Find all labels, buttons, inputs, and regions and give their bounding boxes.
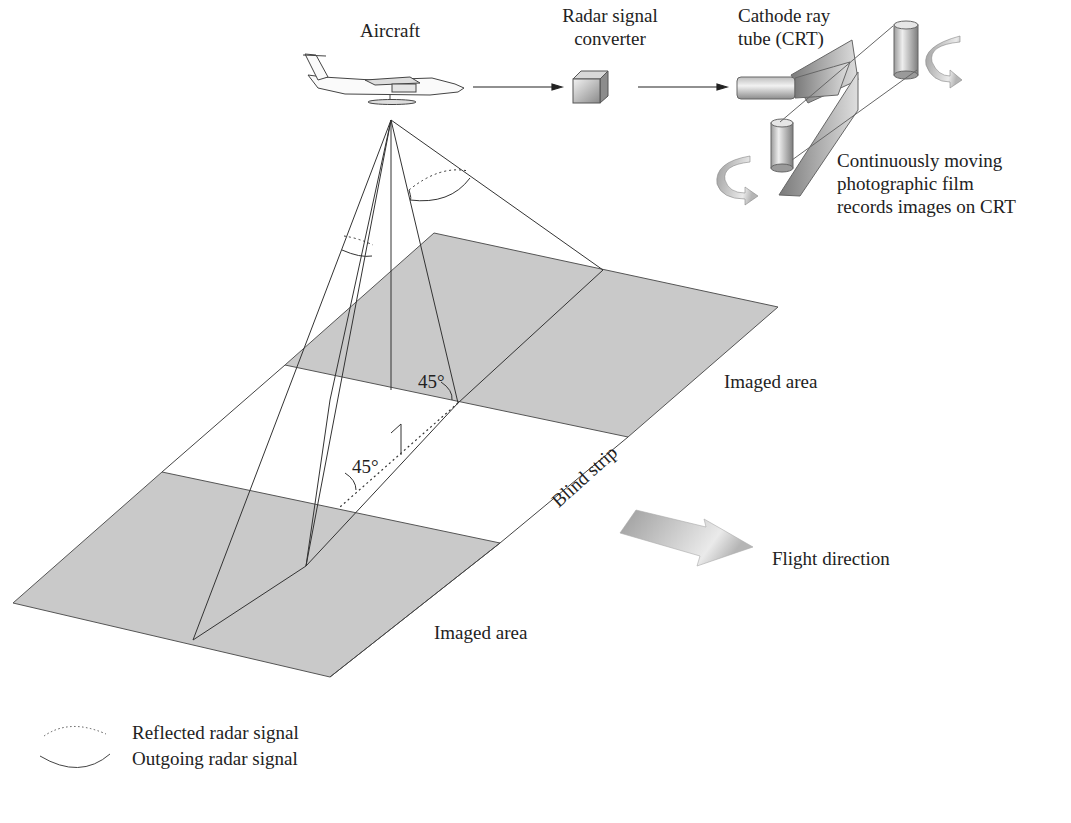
aircraft-label: Aircraft <box>340 20 440 42</box>
crt-label-line1: Cathode ray <box>738 5 830 27</box>
film-label-line3: records images on CRT <box>837 196 1016 218</box>
film-label-line2: photographic film <box>837 173 974 195</box>
angle-label-lower: 45° <box>352 456 379 478</box>
legend-label: Reflected radar signal <box>132 722 299 744</box>
imaged-area-right-label: Imaged area <box>724 371 817 393</box>
legend-item-outgoing: Outgoing radar signal <box>40 746 400 776</box>
solid-arc-icon <box>40 746 110 776</box>
crt-label-line2: tube (CRT) <box>738 28 824 50</box>
imaged-area-left <box>13 472 500 677</box>
converter-label-line2: converter <box>540 28 680 50</box>
flight-direction-label: Flight direction <box>772 548 890 570</box>
radar-diagram <box>0 0 1071 823</box>
converter-label-line1: Radar signal <box>540 5 680 27</box>
legend-label: Outgoing radar signal <box>132 748 298 770</box>
aircraft-icon <box>303 54 464 105</box>
converter-box-icon <box>573 71 608 103</box>
film-label-line1: Continuously moving <box>837 150 1002 172</box>
imaged-area-left-label: Imaged area <box>434 622 527 644</box>
flight-direction-arrow-icon <box>620 510 753 566</box>
nadir-line <box>340 403 458 507</box>
angle-label-upper: 45° <box>418 371 445 393</box>
